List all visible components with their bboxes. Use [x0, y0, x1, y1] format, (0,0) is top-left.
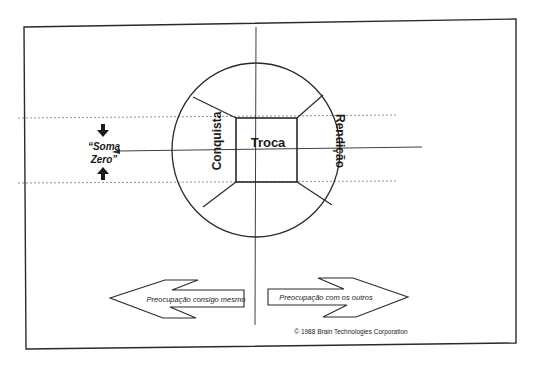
left-arrow-label: Preocupação consigo mesmo — [147, 295, 246, 304]
zero-sum-label-line1: “Soma — [88, 141, 121, 152]
lower-dotted-guide — [18, 181, 396, 183]
arrow-down-icon — [97, 124, 109, 137]
left-label: Conquista — [210, 111, 224, 170]
arrow-up-icon — [97, 167, 109, 180]
center-square — [236, 118, 297, 182]
vertical-axis — [255, 27, 256, 325]
spoke-top-right — [297, 95, 323, 118]
right-label: Rendição — [333, 114, 347, 168]
right-arrow-label: Preocupação com os outros — [279, 293, 373, 302]
zero-sum-label-line2: Zero” — [90, 154, 118, 165]
spoke-bottom-left — [203, 182, 236, 207]
center-label: Troca — [251, 135, 286, 150]
copyright-text: © 1988 Brain Technologies Corporation — [294, 328, 408, 336]
spoke-bottom-right — [297, 182, 332, 205]
conflict-diagram: Troca Conquista Rendição “Soma Zero” Pre… — [0, 0, 546, 366]
